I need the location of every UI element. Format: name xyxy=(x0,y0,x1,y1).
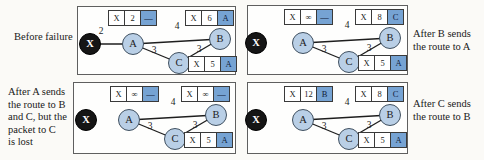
node-x: X xyxy=(245,32,267,54)
node-c: C xyxy=(168,52,190,74)
routing-table-c: X 5 A xyxy=(184,132,233,148)
edge-cost-c-b: 3 xyxy=(189,120,201,131)
node-x-label: X xyxy=(82,115,90,126)
rt-c-nexthop: A xyxy=(220,57,236,71)
node-c-label: C xyxy=(171,134,178,145)
routing-table-a: X ∞ — xyxy=(284,9,333,25)
routing-table-c: X 5 A xyxy=(358,132,407,148)
panel-after-c-sends: 4 3 3 X A B C X 12 B X 8 C X 5 A xyxy=(247,82,408,154)
rt-a-dest: X xyxy=(109,11,124,25)
node-a: A xyxy=(118,109,140,131)
panel-before-failure: 2 4 3 3 X A B C X 2 — X 6 A X 5 A xyxy=(77,6,236,75)
node-a-label: A xyxy=(125,115,133,126)
edge-cost-a-c: 3 xyxy=(318,44,330,55)
node-x: X xyxy=(75,109,97,131)
rt-a-cost: 2 xyxy=(124,11,140,25)
node-a-label: A xyxy=(299,115,307,126)
rt-a-dest: X xyxy=(111,87,126,101)
edge-cost-a-b: 4 xyxy=(171,21,183,32)
rt-a-nexthop: — xyxy=(316,10,332,24)
rt-c-dest: X xyxy=(359,133,374,147)
rt-b-nexthop: C xyxy=(387,10,403,24)
node-c: C xyxy=(338,51,360,73)
rt-c-cost: 5 xyxy=(200,133,216,147)
node-c-label: C xyxy=(345,134,352,145)
rt-a-cost: ∞ xyxy=(300,10,316,24)
rt-a-nexthop: — xyxy=(140,11,156,25)
node-c-label: C xyxy=(175,58,182,69)
edge-a-b xyxy=(129,115,216,120)
node-b: B xyxy=(209,28,231,50)
edge-a-b xyxy=(303,115,390,120)
rt-c-dest: X xyxy=(359,56,374,70)
edge-a-b xyxy=(303,38,390,43)
routing-table-a: X 12 B xyxy=(284,86,333,102)
caption-line: Before failure xyxy=(14,31,80,44)
rt-b-dest: X xyxy=(356,10,371,24)
routing-table-c: X 5 A xyxy=(188,56,237,72)
rt-b-nexthop: A xyxy=(217,11,233,25)
caption-line: packet to C xyxy=(8,124,76,137)
rt-b-cost: 8 xyxy=(371,10,387,24)
node-b-label: B xyxy=(212,110,219,121)
rt-a-nexthop: B xyxy=(316,87,332,101)
edge-cost-c-b: 3 xyxy=(193,44,205,55)
rt-b-nexthop: C xyxy=(387,87,403,101)
node-a: A xyxy=(292,32,314,54)
routing-table-a: X 2 — xyxy=(108,10,157,26)
edge-cost-a-c: 3 xyxy=(144,121,156,132)
rt-c-dest: X xyxy=(189,57,204,71)
node-c-label: C xyxy=(345,57,352,68)
node-b-label: B xyxy=(216,34,223,45)
edge-cost-c-b: 3 xyxy=(363,120,375,131)
rt-b-cost: 8 xyxy=(371,87,387,101)
node-a: A xyxy=(122,33,144,55)
caption-line: After B sends xyxy=(413,28,483,41)
node-a-label: A xyxy=(299,38,307,49)
rt-c-nexthop: A xyxy=(216,133,232,147)
node-x: X xyxy=(79,33,101,55)
rt-c-cost: 5 xyxy=(204,57,220,71)
rt-c-dest: X xyxy=(185,133,200,147)
node-b-label: B xyxy=(386,110,393,121)
caption-line: the route to A xyxy=(413,41,483,54)
edge-cost-a-b: 4 xyxy=(167,97,179,108)
routing-table-b: X 6 A xyxy=(185,10,234,26)
edge-cost-c-b: 3 xyxy=(363,43,375,54)
rt-a-cost: 12 xyxy=(300,87,316,101)
caption-after-a-sends: After A sends the route to B and C, but … xyxy=(8,86,76,149)
node-x: X xyxy=(245,109,267,131)
rt-b-dest: X xyxy=(356,87,371,101)
node-b: B xyxy=(379,104,401,126)
caption-line: and C, but the xyxy=(8,111,76,124)
rt-b-nexthop: — xyxy=(213,87,229,101)
rt-b-dest: X xyxy=(182,87,197,101)
node-x-label: X xyxy=(86,39,94,50)
routing-table-b: X 8 C xyxy=(355,9,404,25)
caption-line: is lost xyxy=(8,136,76,149)
node-b: B xyxy=(205,104,227,126)
rt-b-dest: X xyxy=(186,11,201,25)
caption-after-b-sends: After B sends the route to A xyxy=(413,28,483,53)
caption-line: the route to B xyxy=(8,99,76,112)
rt-a-dest: X xyxy=(285,87,300,101)
rt-c-cost: 5 xyxy=(374,133,390,147)
caption-after-c-sends: After C sends the route to B xyxy=(413,98,483,123)
routing-table-b: X 8 C xyxy=(355,86,404,102)
caption-before-failure: Before failure xyxy=(14,31,80,44)
routing-table-b: X ∞ — xyxy=(181,86,230,102)
caption-line: the route to B xyxy=(413,111,483,124)
rt-a-dest: X xyxy=(285,10,300,24)
rt-c-nexthop: A xyxy=(390,56,406,70)
caption-line: After C sends xyxy=(413,98,483,111)
panel-after-a-sends: 4 3 3 X A B C X ∞ — X ∞ — X 5 A xyxy=(73,82,236,154)
rt-a-cost: ∞ xyxy=(126,87,142,101)
edge-cost-a-c: 3 xyxy=(318,121,330,132)
edge-cost-a-b: 4 xyxy=(341,20,353,31)
panel-after-b-sends: 4 3 3 X A B C X ∞ — X 8 C X 5 A xyxy=(247,5,408,75)
node-x-label: X xyxy=(252,38,260,49)
edge-cost-a-c: 3 xyxy=(148,45,160,56)
edge-a-b xyxy=(133,39,220,44)
node-a: A xyxy=(292,109,314,131)
caption-line: After A sends xyxy=(8,86,76,99)
